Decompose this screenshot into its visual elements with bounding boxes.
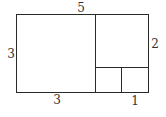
small-square-left-region <box>96 68 121 92</box>
medium-square-region <box>96 15 148 67</box>
label-top-width: 5 <box>77 2 85 14</box>
outer-bottom-edge <box>16 92 149 93</box>
tiled-rectangle-diagram: 5 3 2 3 1 <box>0 0 166 117</box>
outer-right-edge <box>148 14 149 93</box>
label-bottom-left-width: 3 <box>53 94 61 106</box>
label-right-height: 2 <box>151 38 159 50</box>
large-square-region <box>17 15 95 92</box>
small-square-right-region <box>122 68 148 92</box>
label-bottom-right-width: 1 <box>131 95 139 107</box>
label-left-height: 3 <box>7 48 15 60</box>
